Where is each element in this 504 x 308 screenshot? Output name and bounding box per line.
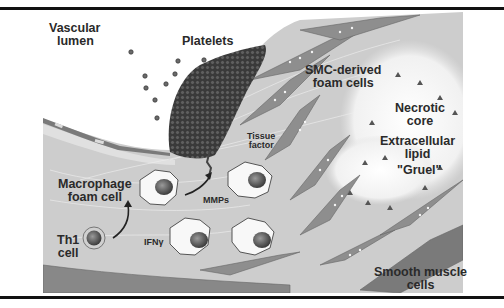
label-necrotic-core: Necrotic core (395, 102, 445, 128)
label-line: cell (57, 247, 79, 260)
label-line: factor (247, 141, 275, 150)
label-line: core (395, 115, 445, 128)
label-mmps: MMPs (203, 196, 229, 205)
label-gruel: "Gruel" (397, 164, 442, 177)
label-line: lumen (49, 35, 100, 48)
label-vascular-lumen: Vascular lumen (49, 22, 100, 48)
label-line: cells (374, 279, 467, 292)
label-extracellular-lipid: Extracellular lipid (380, 135, 455, 161)
label-line: foam cells (305, 77, 381, 90)
label-macrophage-foam-cell: Macrophage foam cell (58, 178, 132, 204)
caption-fragment: ​ (0, 300, 504, 308)
label-th1-cell: Th1 cell (57, 234, 79, 260)
label-tissue-factor: Tissue factor (247, 132, 275, 151)
label-line: foam cell (58, 191, 132, 204)
th1-cell (83, 227, 105, 249)
label-platelets: Platelets (182, 35, 233, 48)
label-line: lipid (380, 148, 455, 161)
label-smooth-muscle-cells: Smooth muscle cells (374, 266, 467, 292)
label-smc-derived-foam-cells: SMC-derived foam cells (305, 64, 381, 90)
label-ifn-gamma: IFNγ (144, 238, 164, 247)
